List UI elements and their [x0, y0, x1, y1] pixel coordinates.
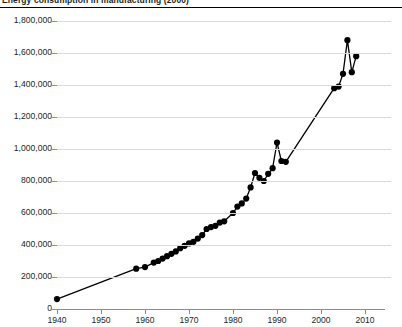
x-axis-tick-mark	[321, 310, 322, 314]
y-gridline	[57, 277, 391, 278]
data-point-marker	[248, 184, 254, 190]
y-gridline	[57, 149, 391, 150]
y-gridline	[57, 85, 391, 86]
data-point-marker	[274, 140, 280, 146]
x-axis-tick-mark	[365, 310, 366, 314]
data-point-marker	[221, 218, 227, 224]
y-axis-tick-label: 200,000	[0, 272, 52, 281]
data-point-marker	[142, 264, 148, 270]
y-axis-tick-mark	[51, 117, 57, 118]
x-axis-tick-mark	[101, 310, 102, 314]
y-axis-tick-mark	[51, 213, 57, 214]
chart-figure: Energy consumption in manufacturing (200…	[0, 0, 402, 327]
data-point-marker	[239, 200, 245, 206]
y-axis-tick-label: 1,000,000	[0, 144, 52, 153]
y-axis-tick-mark	[51, 85, 57, 86]
data-point-marker	[199, 232, 205, 238]
series-line	[57, 40, 356, 299]
x-axis-tick-label: 1960	[125, 316, 165, 325]
data-point-marker	[270, 165, 276, 171]
y-axis-tick-mark	[51, 21, 57, 22]
x-axis-tick-label: 1940	[37, 316, 77, 325]
y-axis-tick-mark	[51, 277, 57, 278]
data-point-marker	[353, 53, 359, 59]
y-axis-tick-label: 1,600,000	[0, 48, 52, 57]
data-point-marker	[265, 171, 271, 177]
data-point-marker	[283, 159, 289, 165]
y-axis-tick-label: 400,000	[0, 240, 52, 249]
x-axis-tick-mark	[57, 310, 58, 314]
data-point-marker	[349, 69, 355, 75]
x-axis-tick-label: 2010	[345, 316, 385, 325]
y-gridline	[57, 21, 391, 22]
x-axis-tick-mark	[145, 310, 146, 314]
y-axis-tick-mark	[51, 245, 57, 246]
y-axis-tick-label: 0	[0, 304, 52, 313]
y-gridline	[57, 117, 391, 118]
data-point-marker	[344, 37, 350, 43]
x-axis-tick-mark	[233, 310, 234, 314]
y-axis-tick-label: 800,000	[0, 176, 52, 185]
y-gridline	[57, 53, 391, 54]
data-point-marker	[54, 296, 60, 302]
y-axis-tick-label: 1,400,000	[0, 80, 52, 89]
x-axis-tick-label: 1980	[213, 316, 253, 325]
y-axis-tick-label: 600,000	[0, 208, 52, 217]
data-point-marker	[243, 196, 249, 202]
y-axis-tick-label: 1,200,000	[0, 112, 52, 121]
x-axis-tick-label: 1950	[81, 316, 121, 325]
data-point-marker	[252, 170, 258, 176]
plot-area: 0200,000400,000600,000800,0001,000,0001,…	[0, 0, 402, 327]
data-point-marker	[133, 266, 139, 272]
y-axis-tick-mark	[51, 181, 57, 182]
x-axis-tick-label: 1970	[169, 316, 209, 325]
x-axis-tick-mark	[277, 310, 278, 314]
y-gridline	[57, 245, 391, 246]
x-axis-tick-label: 1990	[257, 316, 297, 325]
y-gridline	[57, 181, 391, 182]
y-axis-tick-mark	[51, 149, 57, 150]
y-axis-tick-label: 1,800,000	[0, 16, 52, 25]
y-axis-tick-mark	[51, 53, 57, 54]
x-axis-tick-mark	[189, 310, 190, 314]
data-point-marker	[340, 71, 346, 77]
y-gridline	[57, 213, 391, 214]
x-axis-tick-label: 2000	[301, 316, 341, 325]
